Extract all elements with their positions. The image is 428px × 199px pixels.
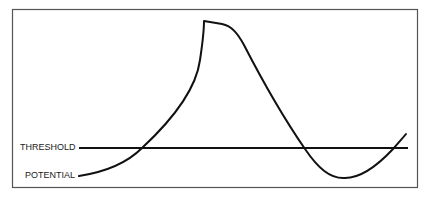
- potential-curve: [79, 21, 406, 178]
- threshold-label: THRESHOLD: [20, 143, 76, 152]
- diagram-frame: [13, 10, 418, 188]
- potential-label: POTENTIAL: [25, 171, 75, 180]
